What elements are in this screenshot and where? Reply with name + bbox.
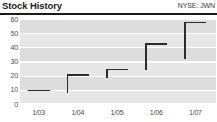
y-axis-tick-label: 10: [0, 86, 18, 93]
chart-gridline: [20, 62, 216, 63]
x-axis-tick-label: 1/04: [58, 108, 98, 117]
y-axis-tick-label: 60: [0, 16, 18, 23]
y-axis-tick-label: 20: [0, 72, 18, 79]
stock-history-widget: Stock History NYSE: JWN 0102030405060 1/…: [0, 0, 217, 122]
x-axis-tick-label: 1/03: [19, 108, 59, 117]
header-divider: [0, 13, 217, 15]
chart-gridline: [20, 47, 216, 48]
data-point-close-line: [67, 74, 89, 76]
y-axis-tick-label: 40: [0, 44, 18, 51]
data-point-close-line: [106, 69, 128, 71]
chart-gridline: [20, 76, 216, 77]
y-axis-tick-label: 30: [0, 58, 18, 65]
chart-band: [20, 47, 216, 61]
x-axis: 1/031/041/051/061/07: [20, 108, 216, 122]
data-point-range-line: [67, 74, 69, 92]
x-axis-tick-label: 1/07: [175, 108, 215, 117]
y-axis: 0102030405060: [0, 19, 18, 104]
y-axis-tick-label: 0: [0, 101, 18, 108]
x-axis-tick-label: 1/05: [97, 108, 137, 117]
widget-header: Stock History NYSE: JWN: [0, 0, 217, 13]
plot-area: [20, 19, 216, 104]
data-point-range-line: [184, 22, 186, 59]
data-point-close-line: [145, 43, 167, 45]
y-axis-tick-label: 50: [0, 30, 18, 37]
x-axis-tick-label: 1/06: [136, 108, 176, 117]
chart-gridline: [20, 19, 216, 20]
chart-band: [20, 76, 216, 90]
data-point-range-line: [145, 43, 147, 70]
stock-history-chart: 0102030405060 1/031/041/051/061/07: [0, 16, 217, 122]
ticker-symbol-label: NYSE: JWN: [178, 0, 215, 12]
data-point-close-line: [184, 22, 206, 24]
chart-gridline: [20, 33, 216, 34]
chart-band: [20, 33, 216, 47]
data-point-close-line: [28, 90, 50, 92]
page-title: Stock History: [2, 0, 62, 11]
chart-band: [20, 90, 216, 104]
chart-gridline: [20, 103, 216, 104]
